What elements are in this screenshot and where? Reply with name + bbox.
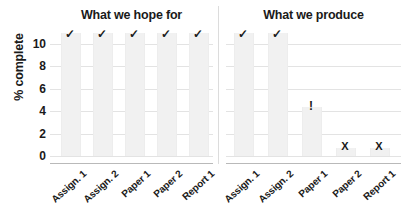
y-tick-6: 6 (24, 83, 46, 95)
x-tick-assign-1: Assign. 1 (49, 168, 88, 205)
panel-left-bars (50, 33, 213, 156)
panel-divider (218, 6, 219, 164)
annotation-check-paper-1: ✓ (129, 28, 139, 40)
annotation-check-assign-1: ✓ (238, 28, 248, 40)
x-tick-report-1: Report 1 (180, 168, 216, 202)
x-tick-report-1: Report 1 (361, 168, 397, 202)
annotation-check-assign-2: ✓ (97, 28, 107, 40)
bar-paper-2[interactable] (157, 33, 177, 156)
panel-left-axis-line (50, 163, 213, 164)
y-tick-4: 4 (24, 105, 46, 117)
bar-paper-1[interactable] (302, 107, 322, 156)
gridline-0 (50, 156, 213, 157)
y-axis-ticks: 10 8 6 4 2 0 (22, 0, 46, 218)
annotation-x-report-1: X (375, 141, 382, 152)
y-tick-0: 0 (24, 150, 46, 162)
x-tick-paper-1: Paper 1 (119, 168, 152, 199)
x-tick-paper-1: Paper 1 (296, 168, 329, 199)
y-tick-10: 10 (24, 38, 46, 50)
annotation-check-paper-2: ✓ (161, 28, 171, 40)
x-tick-paper-2: Paper 2 (151, 168, 184, 199)
annotation-check-assign-1: ✓ (65, 28, 75, 40)
panel-right-title: What we produce (226, 8, 401, 22)
x-tick-assign-1: Assign. 1 (222, 168, 261, 205)
bar-assign-2[interactable] (93, 33, 113, 156)
bar-assign-1[interactable] (234, 33, 254, 156)
annotation-check-report-1: ✓ (193, 28, 203, 40)
panel-what-we-hope-for: What we hope for ✓ ✓ ✓ ✓ ✓ Assign. 1 (50, 0, 213, 218)
bar-assign-2[interactable] (268, 33, 288, 156)
bar-report-1[interactable] (189, 33, 209, 156)
panel-what-we-produce: What we produce ✓ ✓ ! X X Assign. 1 (226, 0, 401, 218)
bar-paper-1[interactable] (125, 33, 145, 156)
bar-assign-1[interactable] (61, 33, 81, 156)
x-tick-assign-2: Assign. 2 (256, 168, 295, 205)
gridline-0 (226, 156, 401, 157)
y-tick-2: 2 (24, 128, 46, 140)
panel-right-bars (226, 33, 401, 156)
panel-left-title: What we hope for (50, 8, 213, 22)
annotation-x-paper-2: X (341, 141, 348, 152)
y-tick-8: 8 (24, 60, 46, 72)
x-tick-paper-2: Paper 2 (330, 168, 363, 199)
panel-right-axis-line (226, 163, 401, 164)
annotation-check-assign-2: ✓ (272, 28, 282, 40)
chart-figure: % complete 10 8 6 4 2 0 What we hope for… (0, 0, 403, 218)
annotation-warning-paper-1: ! (309, 100, 313, 112)
